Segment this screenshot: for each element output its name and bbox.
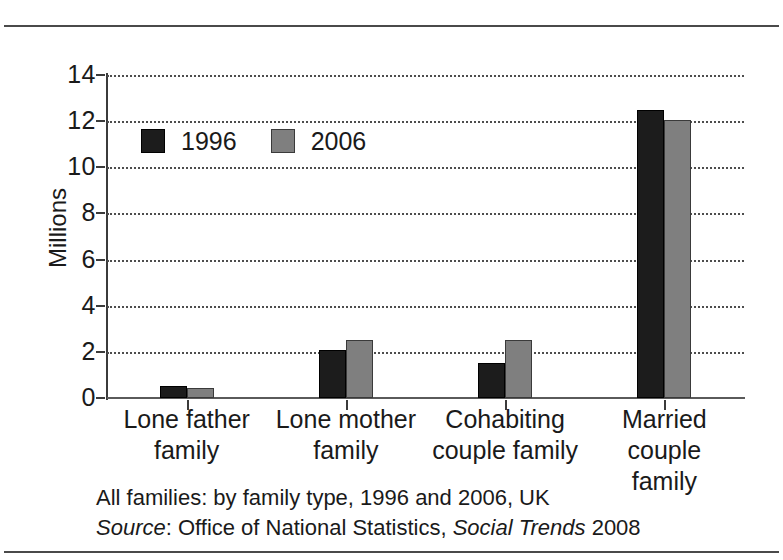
y-axis-tick (96, 351, 105, 353)
caption-title-line: All families: by family type, 1996 and 2… (96, 483, 736, 513)
figure-border-bottom (4, 551, 779, 553)
x-axis-tick (187, 400, 189, 410)
y-axis-tick-label: 12 (67, 108, 96, 133)
bar-1996-cohabiting-couple-family (478, 363, 505, 398)
y-axis-tick (96, 212, 105, 214)
y-axis-tick-label: 2 (82, 339, 96, 364)
figure-border-top (4, 25, 779, 27)
legend-label: 1996 (181, 129, 237, 154)
y-axis-tick-label: 0 (82, 385, 96, 410)
legend-item-2006: 2006 (271, 129, 367, 154)
bar-2006-married-couple-family (664, 120, 691, 398)
y-axis-tick-label: 4 (82, 293, 96, 318)
category-label-line: family (266, 435, 425, 466)
y-axis-tick (96, 397, 105, 399)
y-axis-tick (96, 166, 105, 168)
x-axis-category-label: Lone fatherfamily (107, 404, 266, 466)
gridline (107, 75, 744, 77)
caption-source-line: Source: Office of National Statistics, S… (96, 513, 736, 543)
category-label-line: couple family (426, 435, 585, 466)
bar-1996-lone-father-family (160, 386, 187, 398)
legend-item-1996: 1996 (141, 129, 237, 154)
y-axis-tick (96, 305, 105, 307)
y-axis-tick (96, 120, 105, 122)
plot-area (107, 75, 744, 398)
chart-legend: 19962006 (141, 126, 366, 156)
x-axis-category-labels: Lone fatherfamilyLone motherfamilyCohabi… (107, 404, 745, 476)
bar-2006-lone-mother-family (346, 340, 373, 398)
y-axis-tick (96, 74, 105, 76)
caption-source-body: : Office of National Statistics, (166, 515, 453, 540)
bar-1996-married-couple-family (637, 110, 664, 398)
y-axis-tick-labels: 14121086420 (50, 0, 96, 560)
caption-source-label: Source (96, 515, 166, 540)
category-label-line: family (107, 435, 266, 466)
x-axis-tick (664, 400, 666, 410)
bar-1996-lone-mother-family (319, 350, 346, 398)
y-axis-tick-label: 8 (82, 200, 96, 225)
category-label-line: Married couple (585, 404, 744, 466)
y-axis-tick-label: 14 (67, 62, 96, 87)
gray-square-swatch (271, 129, 295, 153)
bar-2006-cohabiting-couple-family (505, 340, 532, 398)
y-axis-tick (96, 259, 105, 261)
chart-caption: All families: by family type, 1996 and 2… (96, 483, 736, 543)
chart-figure: Millions 14121086420 19962006 Lone fathe… (0, 0, 783, 560)
x-axis-tick (505, 400, 507, 410)
dark-square-swatch (141, 129, 165, 153)
caption-year: 2008 (586, 515, 641, 540)
caption-publication-title: Social Trends (453, 515, 586, 540)
legend-label: 2006 (311, 129, 367, 154)
bar-2006-lone-father-family (187, 388, 214, 398)
y-axis-tick-label: 10 (67, 154, 96, 179)
y-axis-tick-label: 6 (82, 247, 96, 272)
x-axis-tick (346, 400, 348, 410)
x-axis-category-label: Lone motherfamily (266, 404, 425, 466)
x-axis-category-label: Cohabitingcouple family (426, 404, 585, 466)
